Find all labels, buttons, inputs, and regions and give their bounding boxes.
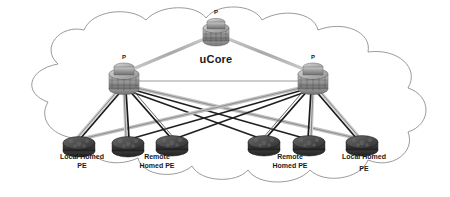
network-topology-diagram: P P (0, 0, 450, 197)
pe-label-line1: Remote (144, 153, 170, 160)
core-router-p-top-label: P (214, 9, 218, 15)
core-router-p-right-label: P (311, 54, 315, 60)
pe-label-line1: Local Homed (60, 153, 104, 160)
core-router-p-left-label: P (122, 54, 126, 60)
pe-router-4[interactable] (248, 136, 280, 156)
pe-router-2[interactable] (112, 137, 144, 157)
pe-label-line1: Remote (277, 153, 303, 160)
pe-label-line2: Homed PE (139, 162, 174, 169)
ucore-cloud-label: uCore (200, 53, 233, 65)
pe-label-line2: PE (359, 165, 369, 172)
pe-label-local-homed-left: Local Homed PE (60, 153, 104, 169)
topology-canvas: P P (0, 0, 450, 197)
pe-label-line1: Local Homed (342, 153, 386, 160)
pe-label-line2: Homed PE (272, 162, 307, 169)
pe-label-line2: PE (77, 162, 87, 169)
